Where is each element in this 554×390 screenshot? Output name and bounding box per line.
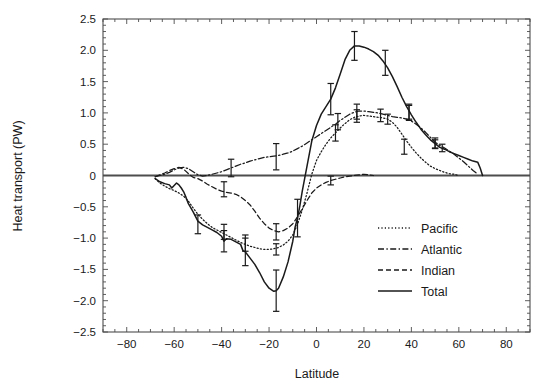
heat-transport-chart: −80−60−40−20020406080 −2.5−2.0−1.5−1.0−0… [0,0,554,390]
y-tick-label: 1.5 [80,76,96,88]
y-tick-label: 0.5 [80,138,96,150]
y-tick-label: −2.0 [73,295,96,307]
legend-label-pacific: Pacific [421,222,458,236]
y-tick-label: 2.0 [80,44,96,56]
x-tick-label: −40 [212,338,232,350]
x-tick-label: 0 [313,338,319,350]
x-tick-label: 20 [358,338,371,350]
y-tick-label: −1.5 [73,263,96,275]
x-tick-label: −60 [164,338,184,350]
legend-label-atlantic: Atlantic [421,243,462,257]
y-tick-label: 2.5 [80,13,96,25]
y-tick-label: 0 [90,170,96,182]
figure-container: −80−60−40−20020406080 −2.5−2.0−1.5−1.0−0… [0,0,554,390]
y-tick-label: −1.0 [73,232,96,244]
legend-label-indian: Indian [421,264,455,278]
y-tick-label: 1.0 [80,107,96,119]
x-tick-label: −80 [117,338,137,350]
x-tick-label: −20 [259,338,279,350]
y-tick-label: −0.5 [73,201,96,213]
y-axis-label: Heat transport (PW) [11,120,25,231]
y-tick-label: −2.5 [73,326,96,338]
x-axis-tick-labels: −80−60−40−20020406080 [117,338,513,350]
x-tick-label: 40 [405,338,418,350]
x-axis-label: Latitude [295,367,340,381]
legend-label-total: Total [421,285,447,299]
x-tick-label: 80 [500,338,513,350]
x-tick-label: 60 [452,338,465,350]
